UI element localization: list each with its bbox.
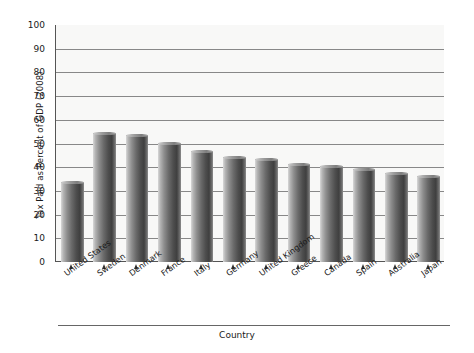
bar-cap — [353, 168, 376, 171]
y-tick-label-90: 90 — [34, 44, 45, 54]
y-axis-tick-labels: 0102030405060708090100 — [0, 0, 55, 262]
bar — [158, 143, 181, 263]
bar-cap — [320, 165, 343, 168]
bar-cap — [61, 181, 84, 184]
y-tick-label-20: 20 — [34, 210, 45, 220]
y-tick-label-10: 10 — [34, 233, 45, 243]
bar-cap — [126, 134, 149, 137]
y-tick-label-60: 60 — [34, 115, 45, 125]
bar — [61, 182, 84, 262]
bar — [255, 159, 278, 262]
bar-cap — [255, 158, 278, 161]
bar — [353, 169, 376, 262]
y-tick-label-80: 80 — [34, 67, 45, 77]
bar-series — [56, 25, 444, 262]
bar-cap — [288, 163, 311, 166]
bar-cap — [223, 156, 246, 159]
bottom-rule — [58, 325, 450, 326]
bar-cap — [191, 150, 214, 153]
y-tick-label-0: 0 — [39, 257, 45, 267]
bar — [191, 151, 214, 262]
chart-figure: Tax Paid as Percent of GDP (2008) 010203… — [0, 0, 474, 353]
plot-area — [55, 25, 444, 262]
y-tick-label-40: 40 — [34, 162, 45, 172]
bar-cap — [417, 175, 440, 178]
y-tick-label-100: 100 — [28, 20, 45, 30]
bar-cap — [93, 132, 116, 135]
bar — [417, 176, 440, 262]
bar — [223, 157, 246, 262]
bar — [385, 173, 408, 262]
bar-cap — [385, 172, 408, 175]
x-axis-title: Country — [0, 330, 474, 340]
bar — [126, 135, 149, 262]
x-axis-tick-labels: United StatesSwedenDenmarkFranceItalyGer… — [0, 270, 474, 320]
bar-cap — [158, 142, 181, 145]
y-tick-label-50: 50 — [34, 139, 45, 149]
y-tick-label-70: 70 — [34, 91, 45, 101]
y-tick-label-30: 30 — [34, 186, 45, 196]
bar — [320, 166, 343, 262]
